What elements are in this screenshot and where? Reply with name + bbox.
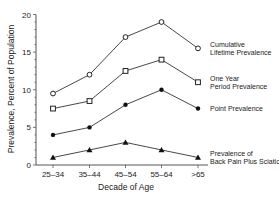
- open-square-marker: [196, 80, 201, 85]
- series-label: Lifetime Prevalence: [210, 49, 272, 56]
- open-circle-marker: [159, 20, 164, 25]
- y-tick-label: 0: [27, 161, 32, 170]
- filled-circle-marker: [123, 103, 127, 107]
- open-square-marker: [51, 106, 56, 111]
- y-axis-title: Prevalence, Percent of Population: [6, 24, 16, 153]
- x-tick-label: 55–64: [150, 170, 173, 179]
- filled-circle-marker: [87, 125, 91, 129]
- y-tick-label: 10: [22, 86, 31, 95]
- x-tick-label: 35–44: [78, 170, 101, 179]
- series-label: One Year: [210, 75, 240, 82]
- series-one-year-period-prevalence: One YearPeriod Prevalence: [51, 57, 268, 111]
- x-axis-title: Decade of Age: [98, 182, 154, 192]
- y-axis: 05101520: [22, 11, 36, 171]
- open-circle-marker: [51, 91, 56, 96]
- open-square-marker: [87, 99, 92, 104]
- series-label: Back Pain Plus Sciatica: [210, 158, 279, 165]
- line-chart: 05101520 25–3435–4445–5455–64>65 Prevale…: [0, 0, 279, 199]
- filled-circle-marker: [159, 88, 163, 92]
- series-label: Cumulative: [210, 41, 245, 48]
- x-tick-label: 45–54: [114, 170, 137, 179]
- open-square-marker: [123, 69, 128, 74]
- filled-triangle-marker: [123, 139, 129, 144]
- y-tick-label: 5: [27, 123, 32, 132]
- series-label: Period Prevalence: [210, 83, 267, 90]
- y-tick-label: 15: [22, 48, 31, 57]
- series-label: Point Prevalence: [210, 105, 263, 112]
- y-tick-label: 20: [22, 11, 31, 20]
- filled-circle-marker: [51, 133, 55, 137]
- filled-circle-marker: [196, 106, 200, 110]
- series-prevalence-of-back-pain-plus-sciatica: Prevalence ofBack Pain Plus Sciatica: [50, 139, 279, 165]
- series-label: Prevalence of: [210, 150, 253, 157]
- series-point-prevalence: Point Prevalence: [51, 88, 263, 138]
- open-square-marker: [159, 57, 164, 62]
- x-axis: 25–3435–4445–5455–64>65: [36, 165, 208, 179]
- open-circle-marker: [123, 35, 128, 40]
- x-tick-label: >65: [191, 170, 205, 179]
- open-circle-marker: [87, 72, 92, 77]
- series-layer: CumulativeLifetime PrevalenceOne YearPer…: [50, 20, 279, 165]
- open-circle-marker: [196, 46, 201, 51]
- x-tick-label: 25–34: [42, 170, 65, 179]
